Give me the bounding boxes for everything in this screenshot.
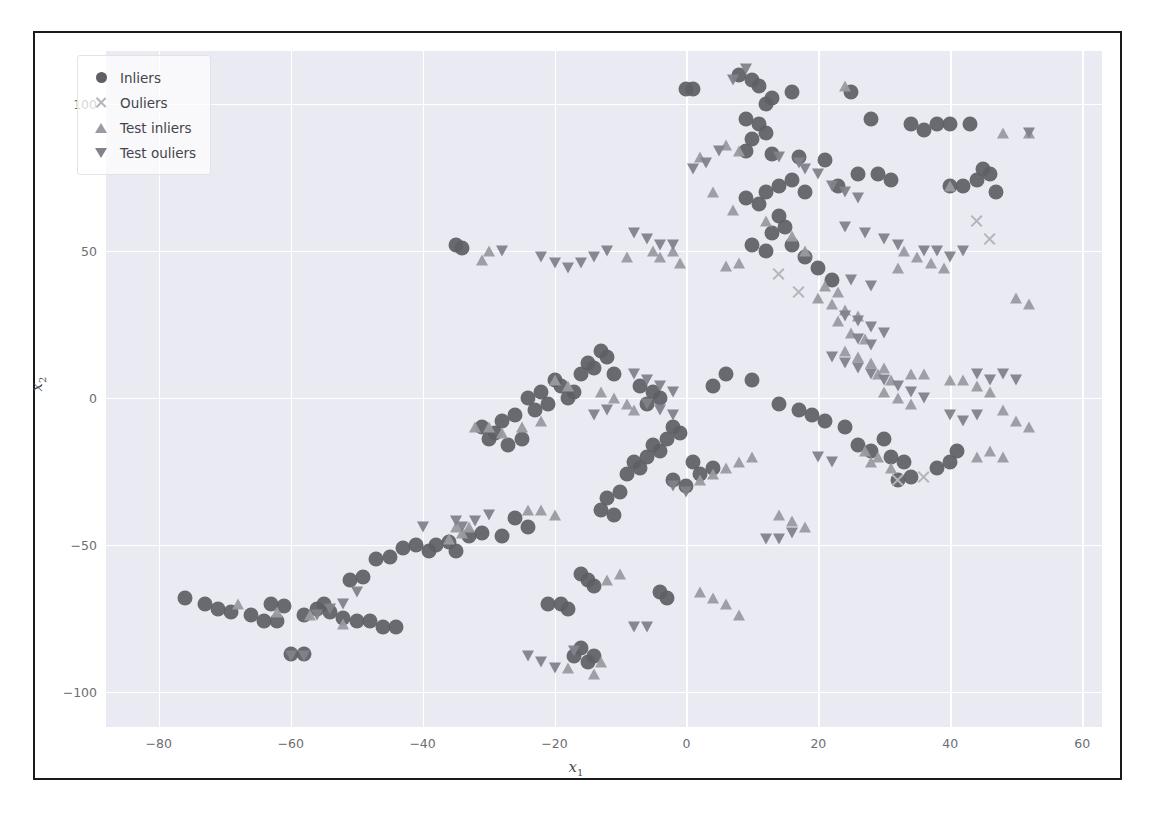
data-point-circle xyxy=(494,528,509,543)
data-point-triangle-up xyxy=(997,451,1009,462)
gridline-vertical xyxy=(1082,51,1083,727)
data-point-circle xyxy=(963,117,978,132)
data-point-triangle-down xyxy=(826,457,838,468)
data-point-circle xyxy=(719,367,734,382)
data-point-circle xyxy=(455,240,470,255)
data-point-circle xyxy=(606,508,621,523)
data-point-triangle-up xyxy=(496,428,508,439)
data-point-triangle-up xyxy=(733,145,745,156)
data-point-triangle-down xyxy=(984,375,996,386)
data-point-triangle-down xyxy=(918,245,930,256)
data-point-triangle-up xyxy=(443,533,455,544)
data-point-triangle-up xyxy=(865,457,877,468)
data-point-triangle-up xyxy=(839,81,851,92)
data-point-triangle-down xyxy=(865,281,877,292)
legend-label: Ouliers xyxy=(120,95,168,111)
data-point-triangle-down xyxy=(839,222,851,233)
x-tick-label: 20 xyxy=(810,736,826,751)
data-point-triangle-down xyxy=(845,275,857,286)
data-point-triangle-up xyxy=(595,386,607,397)
data-point-triangle-up xyxy=(516,422,528,433)
data-point-triangle-down xyxy=(450,516,462,527)
data-point-triangle-up xyxy=(601,575,613,586)
y-tick-label: 50 xyxy=(49,243,97,258)
data-point-triangle-up xyxy=(971,451,983,462)
data-point-triangle-up xyxy=(654,251,666,262)
data-point-triangle-up xyxy=(707,187,719,198)
x-axis-label: x1 xyxy=(569,758,584,778)
data-point-triangle-up xyxy=(971,381,983,392)
data-point-circle xyxy=(514,431,529,446)
data-point-triangle-down xyxy=(839,357,851,368)
data-point-circle xyxy=(850,167,865,182)
data-point-triangle-up xyxy=(878,386,890,397)
data-point-triangle-down xyxy=(654,239,666,250)
data-point-triangle-down xyxy=(944,410,956,421)
data-point-circle xyxy=(817,152,832,167)
data-point-circle xyxy=(613,484,628,499)
data-point-circle xyxy=(653,443,668,458)
data-point-triangle-up xyxy=(337,619,349,630)
data-point-circle xyxy=(686,455,701,470)
data-point-circle xyxy=(659,590,674,605)
data-point-circle xyxy=(771,396,786,411)
data-point-triangle-down xyxy=(865,339,877,350)
data-point-circle xyxy=(811,261,826,276)
data-point-triangle-up xyxy=(760,216,772,227)
x-tick-label: −20 xyxy=(541,736,567,751)
data-point-triangle-down xyxy=(865,322,877,333)
data-point-circle xyxy=(758,243,773,258)
data-point-triangle-up xyxy=(562,381,574,392)
data-point-triangle-down xyxy=(324,604,336,615)
data-point-triangle-up xyxy=(535,416,547,427)
data-point-triangle-down xyxy=(285,651,297,662)
data-point-circle xyxy=(784,173,799,188)
data-point-triangle-up xyxy=(595,657,607,668)
data-point-triangle-up xyxy=(925,257,937,268)
plot-axes xyxy=(106,51,1102,727)
data-point-triangle-down xyxy=(997,369,1009,380)
data-point-triangle-up xyxy=(628,404,640,415)
data-point-triangle-down xyxy=(311,610,323,621)
data-point-circle xyxy=(448,543,463,558)
data-point-cross xyxy=(982,232,997,247)
data-point-triangle-up xyxy=(1023,298,1035,309)
data-point-triangle-down xyxy=(727,75,739,86)
data-point-triangle-down xyxy=(812,169,824,180)
gridline-vertical xyxy=(291,51,292,727)
data-point-circle xyxy=(540,396,555,411)
data-point-triangle-down xyxy=(852,334,864,345)
legend-label: Inliers xyxy=(120,70,161,86)
data-point-triangle-down xyxy=(826,351,838,362)
data-point-triangle-down xyxy=(667,239,679,250)
data-point-triangle-down xyxy=(865,369,877,380)
data-point-triangle-up xyxy=(944,181,956,192)
data-point-triangle-down xyxy=(337,598,349,609)
data-point-cross xyxy=(916,470,931,485)
data-point-triangle-down xyxy=(740,63,752,74)
data-point-triangle-down xyxy=(826,181,838,192)
data-point-triangle-down xyxy=(588,410,600,421)
data-point-triangle-down xyxy=(687,163,699,174)
data-point-triangle-up xyxy=(799,522,811,533)
legend-marker-triangle-up-icon xyxy=(88,123,114,133)
data-point-triangle-down xyxy=(931,245,943,256)
data-point-triangle-down xyxy=(773,151,785,162)
data-point-triangle-up xyxy=(892,392,904,403)
data-point-triangle-down xyxy=(799,163,811,174)
data-point-triangle-up xyxy=(271,607,283,618)
y-tick-label: 0 xyxy=(49,390,97,405)
data-point-circle xyxy=(949,443,964,458)
data-point-triangle-down xyxy=(1023,128,1035,139)
gridline-vertical xyxy=(423,51,424,727)
data-point-triangle-down xyxy=(588,251,600,262)
x-tick-label: −80 xyxy=(146,736,172,751)
data-point-triangle-down xyxy=(641,375,653,386)
data-point-circle xyxy=(864,111,879,126)
gridline-horizontal xyxy=(106,398,1102,399)
data-point-triangle-down xyxy=(535,251,547,262)
data-point-triangle-down xyxy=(852,316,864,327)
gridline-vertical xyxy=(818,51,819,727)
data-point-triangle-up xyxy=(984,445,996,456)
data-point-triangle-down xyxy=(839,310,851,321)
